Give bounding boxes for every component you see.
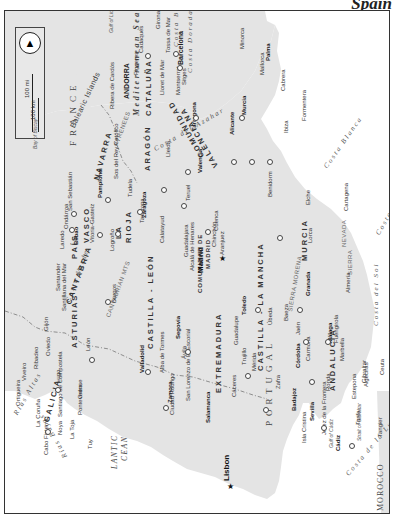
city-murcia: Murcia <box>241 96 247 115</box>
city-marker <box>115 231 121 237</box>
city-caceres: Cáceres <box>231 375 237 397</box>
city-chinchon: Chinchón <box>211 222 217 247</box>
city-marker <box>239 115 245 121</box>
city-marker <box>321 425 327 431</box>
city-sos-del-rey-catolico: Sos del Rey Católico <box>113 123 119 179</box>
city-santiago: Santiago de Compostela <box>57 351 63 417</box>
city-valladolid: Valladolid <box>139 345 145 373</box>
city-sevilla: Sevilla <box>309 402 315 421</box>
city-alcala: Alcalá de Henares <box>189 222 195 271</box>
city-ribera-de-cardos: Ribera de Cardós <box>109 62 115 109</box>
city-ribadeo: Ribadeo <box>33 347 39 369</box>
city-tudela: Tudela <box>127 179 133 197</box>
city-marker <box>55 387 61 393</box>
city-guadalupe: Guadalupe <box>233 316 239 345</box>
label-morocco: MOROCCO <box>377 464 385 511</box>
city-alicante: Alicante <box>229 112 235 135</box>
city-madrid: Madrid <box>197 247 205 273</box>
city-marker <box>145 369 151 375</box>
capital-star-icon: ★ <box>219 255 226 263</box>
city-leon: León <box>85 338 91 351</box>
island-menorca: Minorca <box>239 28 245 49</box>
city-marker <box>145 53 151 59</box>
label-nevada-2: NEVADA <box>341 220 347 247</box>
city-burgos: Burgos <box>111 284 117 303</box>
map-legend: ▲ 100 mi 100 km <box>15 27 45 139</box>
city-marker <box>349 443 355 449</box>
label-costa-del-sol: Costa del Sol <box>373 263 380 326</box>
city-marker <box>277 235 283 241</box>
city-teruel: Teruel <box>185 185 191 201</box>
city-tuy: Tuy <box>87 439 93 449</box>
city-marker <box>105 197 111 203</box>
north-arrow-icon: ▲ <box>19 32 41 54</box>
region-extremadura: EXTREMADURA <box>215 313 223 393</box>
city-figueres: Figueres <box>133 52 139 75</box>
city-gijon: Gijón <box>43 317 49 331</box>
city-marker <box>205 229 211 235</box>
city-marker <box>193 115 199 121</box>
label-bay-of-biscay: Bay of Biscay <box>33 119 38 149</box>
city-elche: Elche <box>305 190 311 205</box>
city-trujillo: Trujillo <box>241 348 247 365</box>
label-gulf-of-lion: Gulf of Lion <box>109 10 114 33</box>
city-ceuta: Ceuta <box>379 359 385 375</box>
city-aranjuez: Aranjuez <box>219 231 225 255</box>
city-marker <box>297 307 303 313</box>
city-estepona: Estepona <box>351 374 357 399</box>
city-jaen: Jaén <box>295 322 301 335</box>
city-vivero: Viveiro <box>21 363 27 381</box>
city-valencia: Valencia <box>197 149 203 173</box>
label-gulf-of-cadiz: Gulf of Cádiz <box>329 419 334 448</box>
city-marker <box>163 405 169 411</box>
label-costa-dorada: Costa Dorada <box>187 10 194 73</box>
city-marker <box>325 339 331 345</box>
city-palma: Palma <box>265 43 271 61</box>
city-algeciras: Algeciras <box>363 362 369 387</box>
city-marker <box>161 187 167 193</box>
scale-mi-label: 100 mi <box>24 80 30 98</box>
city-lorca: Lorca <box>307 228 313 243</box>
city-marker <box>245 373 251 379</box>
city-lloret-de-mar: Lloret de Mar <box>159 60 165 95</box>
city-barcelona: Barcelona <box>177 31 184 65</box>
city-calatayud: Calatayud <box>159 216 165 243</box>
city-granada: Granada <box>305 272 311 296</box>
city-marker <box>185 169 191 175</box>
city-marker <box>71 211 77 217</box>
city-fuengirola: Fuengirola <box>333 315 339 343</box>
city-badajoz: Badajoz <box>291 388 297 411</box>
city-zafra: Zafra <box>275 375 281 389</box>
city-marker <box>45 429 51 435</box>
city-cartagena: Cartagena <box>343 183 349 211</box>
city-marker <box>309 379 315 385</box>
city-laredo: Laredo <box>59 230 65 249</box>
city-ciudad-rodrigo: Ciudad Rodrigo <box>169 373 175 415</box>
city-marker <box>97 232 103 238</box>
city-tangier: Tangier <box>377 417 383 437</box>
city-marker <box>105 299 111 305</box>
city-vitoria: Vitoria-Gasteiz <box>89 204 95 243</box>
map-frame[interactable]: ▲ 100 mi 100 km FRANCE PORTUGAL MOROCCO … <box>4 10 390 514</box>
island-cabrera: Cabrera <box>280 69 286 91</box>
label-atlantic-2: CEAN <box>121 436 129 461</box>
city-sitges: Sitges <box>181 68 187 85</box>
city-alba-de-tormes: Alba de Tormes <box>159 331 165 373</box>
scale-bar-km <box>38 98 39 132</box>
city-marker <box>69 227 75 233</box>
label-andorra: ANDORRA <box>123 63 130 99</box>
city-ubeda: Úbeda <box>267 307 273 325</box>
city-marker <box>185 349 191 355</box>
city-marker <box>267 159 273 165</box>
city-marker <box>173 51 179 57</box>
region-asturias: ASTURIAS <box>71 294 79 348</box>
city-ondarroa: Ondárroa <box>63 204 69 229</box>
city-santillana: Santillana del Mar <box>61 263 67 311</box>
city-marker <box>181 203 187 209</box>
region-aragon: ARAGÓN <box>144 126 152 171</box>
city-benidorm: Benidorm <box>267 171 273 197</box>
city-marker <box>89 357 95 363</box>
city-segovia: Segovia <box>175 316 181 339</box>
city-tarifa: Tarifa <box>355 410 361 425</box>
city-lleida: Lleida <box>165 141 171 157</box>
